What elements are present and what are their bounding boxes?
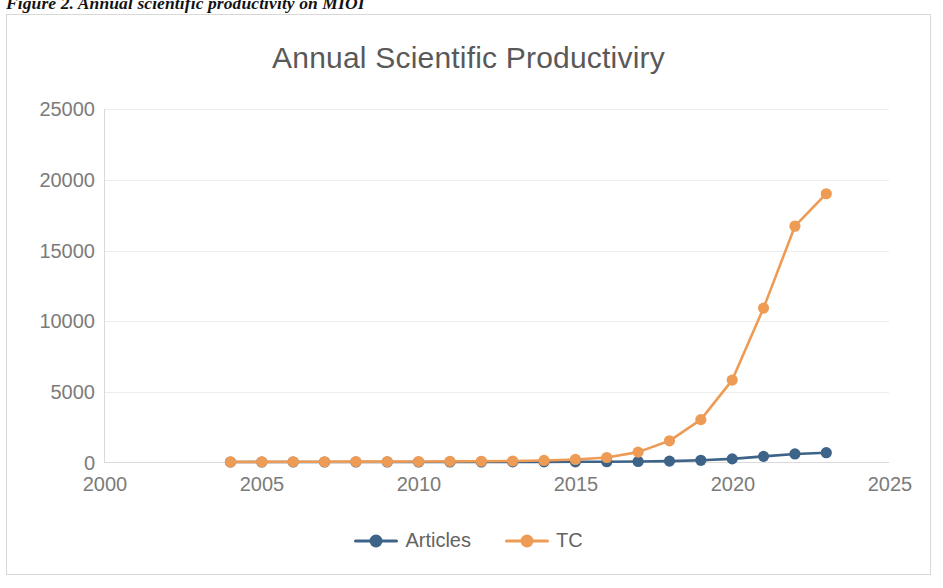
data-point [758,451,769,462]
data-point [633,447,644,458]
y-axis-tick-label: 15000 [39,239,95,262]
data-point [507,455,518,466]
x-axis-tick-label: 2025 [868,473,913,496]
data-point [225,456,236,467]
scan-edge [7,562,930,574]
x-axis-tick-label: 2015 [554,473,599,496]
x-axis-tick-label: 2005 [240,473,285,496]
x-axis-tick-label: 2010 [397,473,442,496]
data-point [538,455,549,466]
figure-caption: Figure 2. Annual scientific productivity… [6,0,706,15]
legend-label: TC [556,529,583,552]
data-point [601,452,612,463]
legend-label: Articles [405,529,471,552]
x-axis-tick-label: 2000 [83,473,128,496]
legend-marker-icon [505,534,549,548]
chart-legend: ArticlesTC [7,529,930,552]
legend-marker-icon [354,534,398,548]
data-point [789,448,800,459]
data-point [413,456,424,467]
data-point [664,456,675,467]
series-articles [225,447,832,467]
data-point [319,456,330,467]
plot-area: 0500010000150002000025000 20002005201020… [104,109,889,463]
data-point [695,455,706,466]
x-axis-tick-label: 2020 [711,473,756,496]
data-point [758,303,769,314]
data-point [570,454,581,465]
data-point [821,447,832,458]
legend-item-articles[interactable]: Articles [354,529,471,552]
data-point [476,456,487,467]
data-point [288,456,299,467]
data-point [664,435,675,446]
y-axis-tick-label: 10000 [39,310,95,333]
y-axis-tick-label: 5000 [51,381,96,404]
chart-title: Annual Scientific Productiviry [7,41,930,75]
data-point [695,414,706,425]
chart-container: Annual Scientific Productiviry 050001000… [6,14,931,575]
series-tc [225,188,832,467]
data-point [256,456,267,467]
data-point [727,453,738,464]
legend-item-tc[interactable]: TC [505,529,583,552]
y-axis-tick-label: 25000 [39,98,95,121]
data-point [382,456,393,467]
data-point [821,188,832,199]
data-point [350,456,361,467]
data-point [444,456,455,467]
data-point [727,375,738,386]
y-axis-tick-label: 20000 [39,168,95,191]
y-axis-tick-label: 0 [84,452,95,475]
data-point [789,221,800,232]
series-layer [105,109,889,462]
series-line [230,194,826,462]
